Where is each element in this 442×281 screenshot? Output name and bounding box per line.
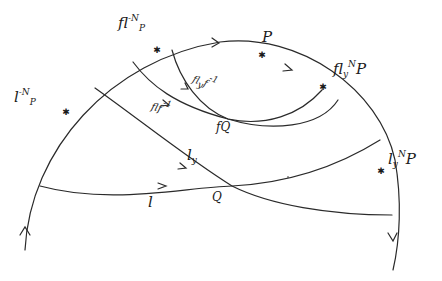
label-base: flf (150, 101, 163, 114)
diagram-canvas: ✱ ✱ ✱ ✱ ✱ fl-NP P flyNP l-NP lyNP flyf-1… (0, 0, 442, 281)
arrow-top-2 (283, 64, 292, 71)
label-base: fl (333, 60, 343, 78)
label-sub: y (343, 69, 348, 79)
label-l: l (148, 195, 153, 210)
arrow-down-right (388, 233, 397, 241)
marker-l-minus-N-P: ✱ (62, 107, 70, 117)
label-fQ: fQ (216, 121, 230, 133)
label-fly-N-P: flyNP (333, 62, 366, 77)
label-sup: N (398, 149, 406, 159)
label-tail: P (406, 150, 416, 168)
label-ly-N-P: lyNP (388, 152, 416, 167)
label-fl-minus-N-P: fl-NP (118, 16, 145, 31)
marker-P: ✱ (258, 50, 266, 60)
label-Q: Q (212, 191, 222, 203)
line-l (40, 140, 380, 195)
label-base: fl (118, 14, 128, 32)
diagram-lines: ✱ ✱ ✱ ✱ ✱ (0, 0, 442, 281)
label-sub: y (192, 155, 197, 165)
line-ly (95, 88, 392, 215)
marker-ly-N-P: ✱ (377, 166, 385, 176)
label-tail: P (30, 97, 36, 107)
marker-fl-minus-N-P: ✱ (153, 45, 161, 55)
label-sup: -N (128, 13, 139, 23)
arrow-ly (178, 163, 186, 169)
label-sup: -N (19, 87, 30, 97)
label-sup: N (348, 59, 356, 69)
label-ly: ly (187, 148, 197, 163)
label-tail: P (139, 23, 145, 33)
arrow-up-left (20, 227, 30, 235)
marker-fly-N-P: ✱ (319, 82, 327, 92)
label-P: P (262, 30, 272, 45)
label-tail: P (356, 60, 366, 78)
arrow-l (158, 183, 166, 189)
label-sub: y (393, 159, 398, 169)
label-l-minus-N-P: l-NP (14, 90, 36, 105)
